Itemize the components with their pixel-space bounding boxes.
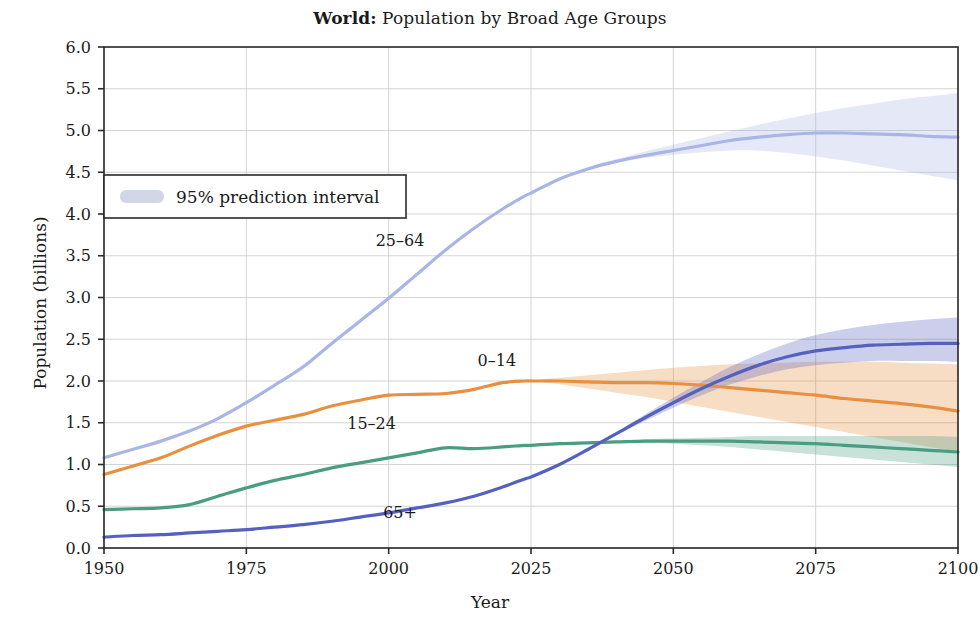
y-tick-label: 0.0 xyxy=(66,539,91,558)
y-tick-label: 2.5 xyxy=(66,330,91,349)
y-tick-label: 6.0 xyxy=(66,38,91,57)
series-label-25-64: 25–64 xyxy=(376,231,425,250)
y-axis-title: Population (billions) xyxy=(30,83,50,523)
chart-container: World: Population by Broad Age Groups 25… xyxy=(0,0,980,631)
legend-swatch xyxy=(120,190,164,203)
y-tick-label: 4.0 xyxy=(66,205,91,224)
y-tick-label: 5.5 xyxy=(66,79,91,98)
x-tick-label: 2075 xyxy=(795,559,836,578)
y-tick-label: 5.0 xyxy=(66,121,91,140)
y-tick-label: 0.5 xyxy=(66,497,91,516)
chart-legend[interactable]: 95% prediction interval xyxy=(104,175,406,218)
y-tick-label: 3.0 xyxy=(66,288,91,307)
y-tick-label: 3.5 xyxy=(66,246,91,265)
legend-label: 95% prediction interval xyxy=(176,187,380,207)
series-label-15-24: 15–24 xyxy=(347,414,396,433)
chart-plot: 25–640–1415–2465+19501975200020252050207… xyxy=(0,0,980,631)
y-tick-label: 2.0 xyxy=(66,372,91,391)
series-label-0-14: 0–14 xyxy=(478,351,517,370)
x-tick-label: 2050 xyxy=(653,559,694,578)
x-tick-label: 2100 xyxy=(938,559,979,578)
x-tick-label: 2000 xyxy=(368,559,409,578)
x-tick-label: 1975 xyxy=(226,559,267,578)
series-label-65+: 65+ xyxy=(383,503,417,522)
y-tick-label: 1.0 xyxy=(66,455,91,474)
x-axis-title: Year xyxy=(0,592,980,612)
y-tick-label: 1.5 xyxy=(66,413,91,432)
x-tick-label: 1950 xyxy=(84,559,125,578)
y-tick-label: 4.5 xyxy=(66,163,91,182)
x-tick-label: 2025 xyxy=(511,559,552,578)
